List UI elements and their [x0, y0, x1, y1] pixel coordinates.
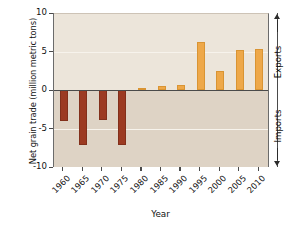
- y-tick-label: -10: [0, 161, 47, 171]
- exports-dash: [277, 20, 278, 32]
- x-tick-mark: [140, 167, 141, 171]
- bar-2010: [255, 49, 263, 90]
- bar-1995: [197, 42, 205, 90]
- bar-1965: [79, 90, 87, 145]
- bar-1960: [60, 90, 68, 121]
- x-tick-mark: [121, 167, 122, 171]
- imports-arrow-icon: [274, 161, 280, 166]
- x-axis-title: Year: [53, 209, 268, 219]
- x-tick-mark: [62, 167, 63, 171]
- grain-trade-bar-chart: Net grain trade (million metric tons) 10…: [0, 0, 300, 228]
- x-tick-mark: [179, 167, 180, 171]
- x-tick-mark: [199, 167, 200, 171]
- y-tick-mark: [49, 128, 53, 129]
- y-tick-label: -5: [0, 123, 47, 133]
- zero-baseline: [54, 90, 269, 91]
- bar-2000: [216, 71, 224, 90]
- x-tick-mark: [160, 167, 161, 171]
- x-tick-mark: [219, 167, 220, 171]
- bar-1970: [99, 90, 107, 120]
- plot-area: [53, 13, 269, 167]
- y-tick-label: 0: [0, 84, 47, 94]
- x-tick-mark: [82, 167, 83, 171]
- imports-label: Imports: [273, 100, 283, 152]
- x-tick-mark: [258, 167, 259, 171]
- exports-label: Exports: [273, 36, 283, 88]
- y-tick-mark: [49, 13, 53, 14]
- x-tick-mark: [101, 167, 102, 171]
- y-tick-label: 10: [0, 7, 47, 17]
- y-tick-mark: [49, 167, 53, 168]
- bar-2005: [236, 50, 244, 90]
- x-tick-mark: [238, 167, 239, 171]
- y-tick-mark: [49, 51, 53, 52]
- y-tick-mark: [49, 90, 53, 91]
- bar-1975: [118, 90, 126, 145]
- y-tick-label: 5: [0, 46, 47, 56]
- exports-arrow-icon: [274, 14, 280, 19]
